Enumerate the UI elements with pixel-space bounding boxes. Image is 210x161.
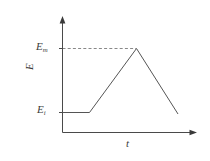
y-tick-label-em: Em bbox=[36, 41, 48, 54]
y-axis-label: E bbox=[24, 63, 35, 70]
y-axis-arrowhead bbox=[60, 16, 66, 24]
x-axis-label: t bbox=[126, 138, 129, 149]
energy-profile-line bbox=[63, 49, 179, 115]
figure-container: Em Ei E t bbox=[0, 0, 210, 161]
y-tick-label-ei: Ei bbox=[37, 104, 46, 117]
x-axis-arrowhead bbox=[190, 130, 198, 136]
plot-canvas bbox=[0, 0, 210, 161]
